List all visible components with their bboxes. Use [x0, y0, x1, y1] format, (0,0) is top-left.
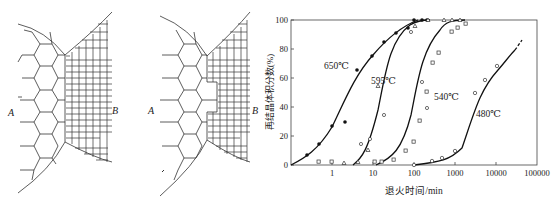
- y-tick-labels: 0 20 40 60 80 100: [275, 15, 288, 170]
- figure: A B A B 0 20 40: [0, 0, 556, 202]
- label-a-left: A: [7, 107, 15, 118]
- curve-480-dashed: [515, 40, 522, 50]
- y-tick-40: 40: [280, 102, 289, 112]
- label-650: 650℃: [324, 61, 349, 71]
- markers-540-circles: [420, 80, 428, 109]
- label-a-middle: A: [147, 105, 155, 116]
- x-tick-10000: 10000: [485, 168, 506, 178]
- label-b-left: B: [112, 105, 118, 116]
- label-540: 540℃: [434, 92, 459, 102]
- y-tick-100: 100: [275, 15, 288, 25]
- y-axis-title: 再结晶体积分数(%): [264, 54, 275, 131]
- label-b-middle: B: [252, 105, 258, 116]
- x-tick-labels: 1 10 100 1000 10000 100000: [330, 168, 550, 178]
- fine-grains-middle: [208, 20, 250, 162]
- x-tick-1: 1: [330, 168, 334, 178]
- markers-595-circles: [359, 30, 412, 145]
- curve-595: [353, 20, 430, 165]
- y-tick-0: 0: [284, 160, 288, 170]
- grain-growth-diagram-middle: [160, 12, 250, 196]
- x-tick-1000: 1000: [447, 168, 464, 178]
- curve-480: [414, 50, 515, 165]
- chart: 0 20 40 60 80 100 1 10 100 1000 10000 10…: [264, 15, 550, 196]
- y-tick-20: 20: [280, 131, 289, 141]
- y-tick-60: 60: [280, 73, 289, 83]
- y-tick-80: 80: [280, 44, 289, 54]
- y-axis: [291, 20, 294, 165]
- markers-650: [305, 18, 429, 157]
- x-axis-title: 退火时间/min: [385, 185, 443, 196]
- coarse-grains-left: [18, 30, 65, 180]
- curves: [291, 20, 522, 165]
- x-tick-100000: 100000: [524, 168, 550, 178]
- x-tick-100: 100: [408, 168, 421, 178]
- coarse-grains-middle: [160, 30, 217, 180]
- grain-growth-diagram-left: [18, 12, 112, 193]
- curve-650: [291, 20, 418, 165]
- x-tick-10: 10: [369, 168, 378, 178]
- label-595: 595℃: [371, 76, 396, 86]
- label-480: 480℃: [476, 109, 501, 119]
- fine-grains-left: [66, 20, 112, 162]
